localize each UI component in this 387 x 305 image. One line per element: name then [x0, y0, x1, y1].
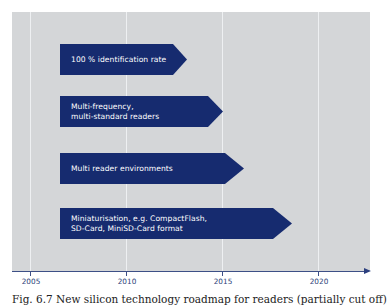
axis-tick-2010 [126, 271, 127, 276]
axis-arrowhead-icon [364, 268, 371, 274]
axis-tick-2020 [318, 271, 319, 276]
roadmap-arrow-identification-rate: 100 % identification rate [60, 44, 187, 75]
roadmap-arrow-multi-reader-environments: Multi reader environments [60, 153, 244, 184]
axis-tick-2015 [222, 271, 223, 276]
figure-caption: Fig. 6.7 New silicon technology roadmap … [12, 293, 387, 305]
time-axis-line [12, 271, 366, 272]
roadmap-arrow-multi-frequency-readers: Multi-frequency, multi-standard readers [60, 96, 223, 127]
axis-label-2020: 2020 [304, 277, 334, 286]
arrow-label: Multi reader environments [71, 164, 173, 174]
gridline-2005 [30, 12, 31, 271]
arrow-label: Multi-frequency, multi-standard readers [71, 102, 159, 121]
arrow-label: 100 % identification rate [71, 55, 166, 65]
axis-tick-2005 [30, 271, 31, 276]
roadmap-arrow-miniaturisation: Miniaturisation, e.g. CompactFlash, SD-C… [60, 208, 292, 239]
arrow-label: Miniaturisation, e.g. CompactFlash, SD-C… [71, 214, 207, 233]
axis-label-2005: 2005 [16, 277, 46, 286]
axis-label-2015: 2015 [208, 277, 238, 286]
gridline-2020 [318, 12, 319, 271]
axis-label-2010: 2010 [112, 277, 142, 286]
